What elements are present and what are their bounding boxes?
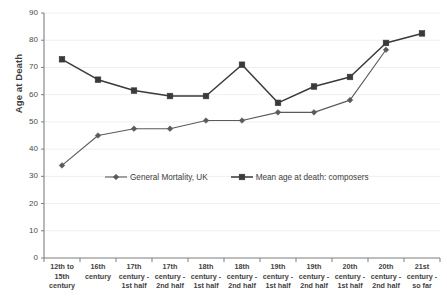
y-tick-label: 0: [12, 254, 38, 262]
legend-square-marker-icon: [230, 172, 254, 182]
x-tick-label: 12th to 15th century: [44, 262, 80, 291]
y-tick-label: 20: [12, 200, 38, 208]
x-tick-label: 19th century - 2nd half: [296, 262, 332, 291]
legend-label: General Mortality, UK: [130, 173, 208, 182]
y-tick-label: 10: [12, 227, 38, 235]
y-axis-title: Age at Death: [13, 29, 24, 139]
chart-container: Age at Death 0102030405060708090 General…: [0, 0, 447, 301]
x-tick-label: 20th century - 1st half: [332, 262, 368, 291]
x-axis-tick-labels: 12th to 15th century16th century17th cen…: [44, 262, 440, 301]
legend-diamond-marker-icon: [104, 172, 128, 182]
axes: [41, 13, 440, 262]
chart-plot-svg: [44, 13, 440, 258]
x-tick-label: 16th century: [80, 262, 116, 281]
legend-entry: General Mortality, UK: [104, 172, 208, 182]
x-tick-label: 17th century - 1st half: [116, 262, 152, 291]
y-tick-label: 40: [12, 145, 38, 153]
chart-legend: General Mortality, UKMean age at death: …: [104, 172, 369, 182]
x-tick-label: 21st century - so far: [404, 262, 440, 291]
y-tick-label: 90: [12, 9, 38, 17]
y-tick-label: 30: [12, 172, 38, 180]
plot-area: [44, 13, 440, 258]
legend-entry: Mean age at death: composers: [230, 172, 369, 182]
x-tick-label: 19th century - 1st half: [260, 262, 296, 291]
x-tick-label: 18th century - 2nd half: [224, 262, 260, 291]
series-1: [59, 47, 389, 168]
x-tick-label: 20th century - 2nd half: [368, 262, 404, 291]
x-tick-label: 18th century - 1st half: [188, 262, 224, 291]
legend-label: Mean age at death: composers: [256, 173, 369, 182]
x-tick-label: 17th century - 2nd half: [152, 262, 188, 291]
